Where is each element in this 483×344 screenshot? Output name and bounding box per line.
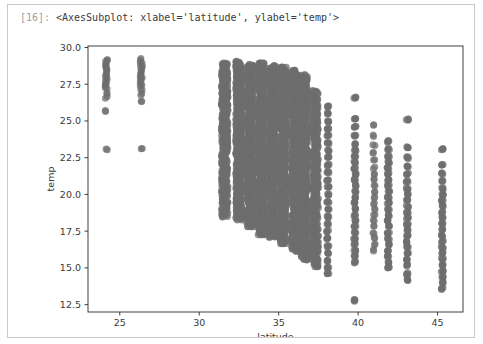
- scatter-point: [371, 193, 378, 200]
- scatter-point: [352, 123, 359, 130]
- scatter-point: [385, 241, 392, 248]
- scatter-point: [138, 90, 145, 97]
- scatter-point: [370, 248, 377, 255]
- y-tick-label: 30.0: [60, 42, 81, 53]
- output-prompt-row: [16]: <AxesSubplot: xlabel='latitude', y…: [8, 5, 474, 31]
- y-tick-label: 22.5: [60, 152, 81, 163]
- scatter-point: [323, 177, 330, 184]
- scatter-points: [102, 55, 447, 305]
- scatter-point: [385, 152, 392, 159]
- scatter-point: [138, 98, 145, 105]
- scatter-point: [385, 222, 392, 229]
- scatter-point: [324, 257, 331, 264]
- scatter-point: [384, 193, 391, 200]
- scatter-point: [104, 146, 111, 153]
- y-tick-label: 15.0: [60, 262, 81, 273]
- axes-repr-text: <AxesSubplot: xlabel='latitude', ylabel=…: [56, 12, 339, 23]
- scatter-point: [325, 199, 332, 206]
- scatter-point: [403, 202, 410, 209]
- scatter-point: [371, 234, 378, 241]
- scatter-point: [352, 217, 359, 224]
- scatter-point: [438, 284, 445, 291]
- scatter-point: [404, 170, 411, 177]
- scatter-point: [352, 252, 359, 259]
- y-tick-label: 20.0: [60, 189, 81, 200]
- scatter-point: [325, 154, 332, 161]
- output-prompt-label[interactable]: [16]:: [20, 12, 50, 23]
- scatter-point: [440, 255, 447, 262]
- scatter-point: [370, 223, 377, 230]
- x-tick-label: 35: [273, 317, 285, 328]
- scatter-point: [138, 145, 145, 152]
- scatter-point: [405, 232, 412, 239]
- scatter-point: [224, 192, 231, 199]
- y-tick-label: 12.5: [60, 299, 81, 310]
- matplotlib-figure: 12.515.017.520.022.525.027.530.0 2530354…: [8, 29, 474, 337]
- scatter-point: [313, 262, 320, 269]
- scatter-point: [323, 221, 330, 228]
- scatter-point: [325, 212, 332, 219]
- x-tick-label: 45: [432, 317, 444, 328]
- scatter-point: [221, 174, 228, 181]
- scatter-point: [325, 227, 332, 234]
- x-tick-labels: 2530354045: [114, 317, 444, 328]
- scatter-point: [371, 175, 378, 182]
- scatter-point: [370, 149, 377, 156]
- scatter-point: [350, 95, 357, 102]
- scatter-point: [386, 264, 393, 271]
- scatter-point: [102, 95, 109, 102]
- scatter-point: [219, 213, 226, 220]
- y-tick-marks: [85, 47, 89, 304]
- y-tick-label: 25.0: [60, 115, 81, 126]
- scatter-point: [438, 146, 445, 153]
- scatter-point: [280, 240, 287, 247]
- scatter-point: [102, 108, 109, 115]
- scatter-point: [301, 256, 308, 263]
- scatter-point: [404, 163, 411, 170]
- scatter-point: [324, 168, 331, 175]
- y-tick-labels: 12.515.017.520.022.525.027.530.0: [60, 42, 81, 310]
- scatter-point: [385, 211, 392, 218]
- scatter-point: [404, 154, 411, 161]
- scatter-point: [404, 277, 411, 284]
- scatter-point: [352, 170, 359, 177]
- scatter-point: [255, 231, 262, 238]
- scatter-plot: 12.515.017.520.022.525.027.530.0 2530354…: [8, 29, 474, 337]
- scatter-point: [325, 206, 332, 213]
- scatter-point: [439, 202, 446, 209]
- x-axis-label: latitude: [257, 331, 294, 337]
- scatter-point: [351, 240, 358, 247]
- scatter-point: [440, 161, 447, 168]
- scatter-point: [405, 214, 412, 221]
- scatter-point: [404, 144, 411, 151]
- scatter-point: [384, 138, 391, 145]
- y-axis-label: temp: [45, 167, 56, 192]
- scatter-point: [249, 223, 256, 230]
- scatter-point: [324, 139, 331, 146]
- scatter-point: [371, 156, 378, 163]
- scatter-point: [439, 177, 446, 184]
- scatter-point: [325, 147, 332, 154]
- scatter-point: [438, 243, 445, 250]
- scatter-point: [351, 297, 358, 304]
- x-tick-label: 25: [114, 317, 126, 328]
- scatter-point: [323, 236, 330, 243]
- scatter-point: [403, 116, 410, 123]
- scatter-point: [439, 169, 446, 176]
- scatter-point: [232, 214, 239, 221]
- scatter-point: [325, 161, 332, 168]
- scatter-point: [325, 270, 332, 277]
- scatter-point: [352, 115, 359, 122]
- scatter-point: [325, 191, 332, 198]
- scatter-point: [351, 259, 358, 266]
- x-tick-label: 40: [352, 317, 364, 328]
- scatter-point: [370, 122, 377, 129]
- scatter-point: [371, 142, 378, 149]
- y-tick-label: 17.5: [60, 226, 81, 237]
- scatter-point: [324, 118, 331, 125]
- x-tick-marks: [120, 312, 438, 316]
- scatter-point: [403, 262, 410, 269]
- notebook-output-cell: [16]: <AxesSubplot: xlabel='latitude', y…: [7, 4, 475, 338]
- scatter-point: [325, 110, 332, 117]
- scatter-point: [370, 216, 377, 223]
